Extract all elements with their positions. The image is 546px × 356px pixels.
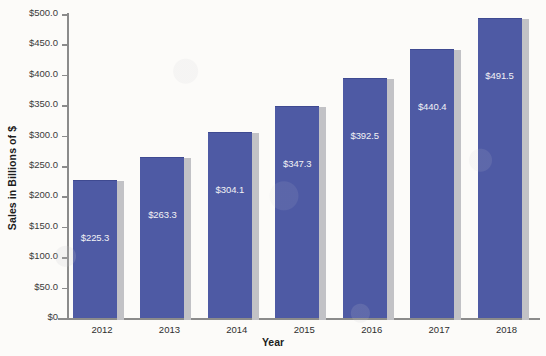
x-axis-tick-label: 2018 [478,324,536,335]
bar-value-label: $263.3 [140,209,184,220]
bar[interactable] [140,157,184,318]
bar-shadow [252,133,259,320]
y-axis-tick-mark [62,75,68,77]
y-axis-tick-label: $200.0 [29,189,58,200]
bar-chart: Sales in Billions of $ $0$50.0$100.0$150… [0,0,546,356]
bar-value-label: $347.3 [275,158,319,169]
bar-shadow [387,79,394,320]
bar-shadow [319,107,326,320]
plot-area: $0$50.0$100.0$150.0$200.0$250.0$300.0$35… [68,14,540,318]
y-axis-tick-label: $0 [47,311,58,322]
bar[interactable] [275,106,319,318]
x-axis-tick-label: 2014 [208,324,266,335]
y-axis-title: Sales in Billions of $ [2,0,22,356]
y-axis-tick-label: $400.0 [29,68,58,79]
y-axis-tick-mark [62,14,68,16]
y-axis-tick-mark [62,44,68,46]
bar-value-label: $392.5 [343,130,387,141]
y-axis-tick-mark [62,105,68,107]
bar-shadow [522,19,529,320]
y-axis-tick-mark [62,227,68,229]
bar[interactable] [410,49,454,318]
x-axis-tick-label: 2013 [140,324,198,335]
y-axis-tick-label: $450.0 [29,37,58,48]
y-axis-tick-label: $300.0 [29,129,58,140]
y-axis-tick-mark [62,257,68,259]
y-axis-tick-mark [62,318,68,320]
y-axis-tick-label: $50.0 [34,281,58,292]
bar[interactable] [73,180,117,318]
bar-value-label: $304.1 [208,184,252,195]
bar-shadow [454,50,461,320]
x-axis-tick-label: 2012 [73,324,131,335]
x-axis-tick-label: 2015 [275,324,333,335]
y-axis-tick-mark [62,166,68,168]
bar-value-label: $491.5 [478,70,522,81]
y-axis-tick-mark [62,196,68,198]
y-axis-tick-label: $250.0 [29,159,58,170]
x-axis-tick-label: 2017 [410,324,468,335]
y-axis-tick-label: $500.0 [29,7,58,18]
bar[interactable] [343,78,387,318]
y-axis-tick-label: $150.0 [29,220,58,231]
y-axis-tick-mark [62,136,68,138]
y-axis-tick-label: $100.0 [29,250,58,261]
y-axis-title-label: Sales in Billions of $ [6,126,18,230]
x-axis-line [58,318,540,320]
y-axis-tick-label: $350.0 [29,98,58,109]
bar[interactable] [208,132,252,318]
x-axis-tick-label: 2016 [343,324,401,335]
bar-shadow [184,158,191,320]
y-axis-tick-mark [62,288,68,290]
bar-value-label: $440.4 [410,101,454,112]
bar[interactable] [478,18,522,318]
bar-shadow [117,181,124,320]
x-axis-title: Year [0,336,546,348]
bar-value-label: $225.3 [73,232,117,243]
